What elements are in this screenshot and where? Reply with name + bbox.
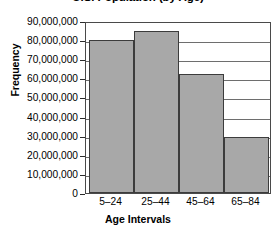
y-axis-tick-mark bbox=[80, 60, 85, 61]
y-axis-tick-label: 90,000,000 bbox=[14, 17, 78, 27]
y-axis-tick-mark bbox=[80, 194, 85, 195]
y-axis-tick-label: 50,000,000 bbox=[14, 93, 78, 103]
chart-figure: U.S. Population (by Age) Frequency 90,00… bbox=[0, 0, 276, 233]
y-axis-tick-label: 40,000,000 bbox=[14, 113, 78, 123]
y-axis-tick-label: 60,000,000 bbox=[14, 74, 78, 84]
y-axis-tick-mark bbox=[80, 137, 85, 138]
bar bbox=[134, 31, 179, 193]
y-axis-tick-label: 70,000,000 bbox=[14, 55, 78, 65]
plot-area bbox=[85, 22, 271, 194]
y-axis-tick-mark bbox=[80, 41, 85, 42]
bars-group bbox=[86, 23, 270, 193]
y-axis-tick-label: 80,000,000 bbox=[14, 36, 78, 46]
x-axis-tick-label: 45–64 bbox=[178, 196, 223, 208]
x-axis-tick-label: 5–24 bbox=[88, 196, 133, 208]
y-axis-tick-mark bbox=[80, 175, 85, 176]
y-axis-tick-labels: 90,000,00080,000,00070,000,00060,000,000… bbox=[14, 22, 78, 194]
y-axis-tick-mark bbox=[80, 22, 85, 23]
y-axis-tick-mark bbox=[80, 156, 85, 157]
x-axis-tick-label: 65–84 bbox=[223, 196, 268, 208]
y-axis-tick-label: 10,000,000 bbox=[14, 170, 78, 180]
x-axis-tick-label: 25–44 bbox=[133, 196, 178, 208]
x-axis-title: Age Intervals bbox=[0, 213, 276, 225]
bar bbox=[224, 137, 269, 193]
y-axis-tick-label: 0 bbox=[14, 189, 78, 199]
y-axis-tick-label: 20,000,000 bbox=[14, 151, 78, 161]
bar bbox=[179, 74, 224, 193]
y-axis-tick-label: 30,000,000 bbox=[14, 132, 78, 142]
y-axis-tick-mark bbox=[80, 118, 85, 119]
x-axis-tick-labels: 5–2425–4445–6465–84 bbox=[85, 196, 271, 210]
bar bbox=[89, 40, 134, 193]
y-axis-tick-mark bbox=[80, 98, 85, 99]
y-axis-tick-mark bbox=[80, 79, 85, 80]
chart-title: U.S. Population (by Age) bbox=[0, 0, 276, 3]
